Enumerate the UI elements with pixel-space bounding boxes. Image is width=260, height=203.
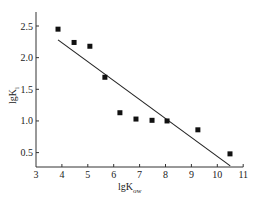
y-axis-label: lgKi: [7, 87, 21, 104]
x-tick-label: 9: [189, 169, 194, 180]
y-tick-label: 0.5: [21, 147, 34, 158]
x-tick-label: 4: [59, 169, 64, 180]
data-point-square: [72, 40, 77, 45]
y-tick-label: 2.0: [21, 52, 34, 63]
data-point-square: [227, 151, 232, 156]
data-point-square: [133, 117, 138, 122]
data-point-square: [165, 118, 170, 123]
y-tick-label: 1.0: [21, 115, 34, 126]
data-point-square: [117, 110, 122, 115]
data-point-square: [195, 127, 200, 132]
x-tick-label: 7: [137, 169, 142, 180]
x-axis-ticks: 34567891011: [34, 164, 249, 180]
data-points: [56, 27, 233, 157]
axes: [36, 12, 243, 167]
x-tick-label: 3: [34, 169, 39, 180]
x-tick-label: 6: [111, 169, 116, 180]
y-tick-label: 2.5: [21, 21, 34, 32]
fit-line: [58, 40, 230, 166]
x-tick-label: 10: [212, 169, 222, 180]
data-point-square: [87, 44, 92, 49]
scatter-chart: 34567891011 0.51.01.52.02.5 lgKow lgKi: [0, 0, 260, 203]
data-point-square: [150, 118, 155, 123]
regression-line: [58, 40, 230, 166]
x-tick-label: 5: [85, 169, 90, 180]
x-tick-label: 8: [163, 169, 168, 180]
data-point-square: [56, 27, 61, 32]
y-tick-label: 1.5: [21, 84, 34, 95]
x-axis-label: lgKow: [118, 181, 143, 195]
x-tick-label: 11: [238, 169, 248, 180]
data-point-square: [102, 75, 107, 80]
